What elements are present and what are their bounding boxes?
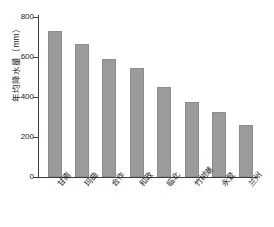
- y-axis-tick-label: 600: [10, 53, 34, 61]
- bar-chart: 年均降水量（mm） 0200400600800 甘南玛曲合作和政临北竹树潮永登兰…: [0, 0, 274, 227]
- y-axis-tick-labels: 0200400600800: [0, 0, 34, 227]
- y-axis-tick-label: 800: [10, 13, 34, 21]
- y-axis-tick-mark: [33, 17, 38, 18]
- x-axis-tick-labels: 甘南玛曲合作和政临北竹树潮永登兰州: [39, 179, 258, 227]
- y-axis-tick-label: 0: [10, 173, 34, 181]
- y-axis-tick-mark: [33, 177, 38, 178]
- y-axis-tick-mark: [33, 97, 38, 98]
- bar: [48, 31, 62, 177]
- y-axis-tick-label: 200: [10, 133, 34, 141]
- y-axis-tick-mark: [33, 57, 38, 58]
- y-axis-tick-mark: [33, 137, 38, 138]
- y-axis-tick-label: 400: [10, 93, 34, 101]
- plot-area: [39, 17, 258, 177]
